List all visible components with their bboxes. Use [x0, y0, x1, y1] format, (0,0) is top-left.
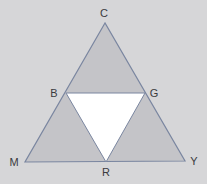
vertex-label-g: G — [148, 88, 160, 99]
vertex-label-m: M — [8, 157, 20, 168]
vertex-label-b: B — [48, 88, 60, 99]
vertex-label-c: C — [98, 8, 110, 19]
vertex-label-r: R — [100, 167, 112, 178]
triangle-figure — [0, 0, 207, 184]
vertex-label-y: Y — [188, 156, 200, 167]
triangle-diagram: C B G M R Y — [0, 0, 207, 184]
